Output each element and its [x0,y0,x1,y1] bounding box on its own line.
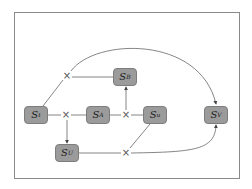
node-label: S [31,110,38,120]
node-sa: SA [86,106,110,124]
node-sv: SV [204,106,228,124]
node-subscript: U [68,150,73,156]
node-sb: SB [113,68,137,86]
node-label: S [61,148,68,158]
node-subscript: V [217,112,221,118]
node-label: S [210,110,217,120]
node-subscript: A [99,112,103,118]
node-su: Su [143,106,167,124]
product-marker-icon: × [62,71,72,81]
node-subscript: B [126,74,130,80]
node-subscript: t [38,112,40,118]
node-label: S [150,110,157,120]
edge-x1-sv [71,48,216,104]
node-su: SU [55,144,79,162]
node-st: St [24,106,48,124]
edge-su2-x4 [130,124,150,148]
product-marker-icon: × [61,110,71,120]
product-marker-icon: × [121,110,131,120]
edge-st-x1 [43,80,63,106]
product-marker-icon: × [121,148,131,158]
node-subscript: u [156,112,160,118]
edge-layer [0,0,252,189]
edge-x4-sv [131,125,216,153]
